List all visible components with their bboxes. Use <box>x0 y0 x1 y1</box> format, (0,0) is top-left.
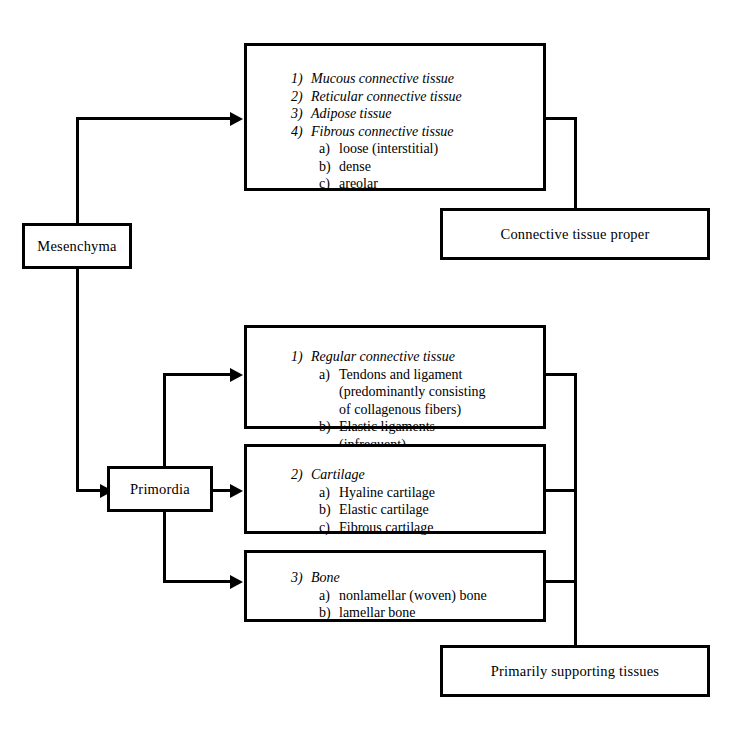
box-connective-tissue-proper: Connective tissue proper <box>440 208 710 260</box>
list-item-marker: 1) <box>291 348 311 366</box>
arrowhead-to-cartilage-box <box>230 484 243 498</box>
list-item-marker: 1) <box>291 70 311 88</box>
list-item-text: nonlamellar (woven) bone <box>339 588 487 603</box>
list-item-marker: b) <box>319 501 339 519</box>
connector-bone-box-out <box>543 580 577 583</box>
list-item-text: Cartilage <box>311 467 365 482</box>
list-item: b)lamellar bone <box>291 604 487 622</box>
list-cartilage: 2)Cartilage a)Hyaline cartilage b)Elasti… <box>291 466 435 536</box>
connector-mesenchyma-down <box>76 266 79 492</box>
list-item: 2)Cartilage <box>291 466 435 484</box>
diagram-canvas: 1)Mucous connective tissue 2)Reticular c… <box>0 0 740 736</box>
list-item-text: Reticular connective tissue <box>311 89 462 104</box>
connector-bus-lower <box>574 373 577 649</box>
box-connective-tissue-proper-label: Connective tissue proper <box>443 226 707 243</box>
connector-mesenchyma-to-upper-box <box>76 117 234 120</box>
arrowhead-to-upper-box <box>230 112 243 126</box>
list-item-text: Hyaline cartilage <box>339 485 435 500</box>
list-item-text: (predominantly consisting <box>339 384 486 399</box>
list-item-text: Fibrous cartilage <box>339 520 433 535</box>
connector-cartilage-box-out <box>543 489 577 492</box>
list-item-text: areolar <box>339 176 378 191</box>
list-item-text: Fibrous connective tissue <box>311 124 454 139</box>
connector-primordia-up <box>163 373 166 466</box>
box-primarily-supporting-tissues-label: Primarily supporting tissues <box>443 663 707 680</box>
list-connective-tissue-proper: 1)Mucous connective tissue 2)Reticular c… <box>291 70 462 193</box>
list-item: b)Elastic cartilage <box>291 501 435 519</box>
connector-primordia-to-regular <box>163 373 234 376</box>
list-item: a)loose (interstitial) <box>291 140 462 158</box>
list-item-marker: 3) <box>291 569 311 587</box>
list-item-marker: c) <box>319 519 339 537</box>
connector-regular-box-out <box>543 373 577 376</box>
list-item: b)dense <box>291 158 462 176</box>
list-item-marker: 2) <box>291 466 311 484</box>
box-mesenchyma: Mesenchyma <box>22 223 132 269</box>
box-mesenchyma-label: Mesenchyma <box>25 238 129 255</box>
list-item-marker: a) <box>319 484 339 502</box>
list-item-marker: b) <box>319 418 339 436</box>
list-item: 3)Adipose tissue <box>291 105 462 123</box>
list-item-text: of collagenous fibers) <box>339 402 461 417</box>
list-item: 2)Reticular connective tissue <box>291 88 462 106</box>
box-primordia-label: Primordia <box>110 481 210 498</box>
box-primarily-supporting-tissues: Primarily supporting tissues <box>440 645 710 697</box>
list-item-text: dense <box>339 159 371 174</box>
list-item: 3)Bone <box>291 569 487 587</box>
connector-bus-upper <box>574 117 577 210</box>
connector-primordia-to-bone <box>163 580 234 583</box>
connector-mesenchyma-up <box>76 117 79 225</box>
list-item-text: Bone <box>311 570 340 585</box>
list-bone: 3)Bone a)nonlamellar (woven) bone b)lame… <box>291 569 487 622</box>
list-item-text: Elastic cartilage <box>339 502 429 517</box>
list-item-text: Mucous connective tissue <box>311 71 454 86</box>
list-item: 1)Regular connective tissue <box>291 348 486 366</box>
list-item-text: lamellar bone <box>339 605 416 620</box>
box-bone: 3)Bone a)nonlamellar (woven) bone b)lame… <box>244 550 546 622</box>
list-item-continuation: (predominantly consisting <box>291 383 486 401</box>
list-regular-connective-tissue: 1)Regular connective tissue a)Tendons an… <box>291 348 486 453</box>
connector-upper-box-out <box>543 117 577 120</box>
list-item-text: loose (interstitial) <box>339 141 438 156</box>
list-item-marker: c) <box>319 175 339 193</box>
list-item-marker: b) <box>319 604 339 622</box>
list-item-text: Regular connective tissue <box>311 349 455 364</box>
list-item: 4)Fibrous connective tissue <box>291 123 462 141</box>
list-item: a)Hyaline cartilage <box>291 484 435 502</box>
list-item-marker: 4) <box>291 123 311 141</box>
list-item-marker: 3) <box>291 105 311 123</box>
list-item-marker: 2) <box>291 88 311 106</box>
list-item: a)Tendons and ligament <box>291 366 486 384</box>
box-primordia: Primordia <box>107 466 213 512</box>
list-item-text: Tendons and ligament <box>339 367 462 382</box>
arrowhead-to-regular-box <box>230 368 243 382</box>
list-item: c)areolar <box>291 175 462 193</box>
list-item-marker: a) <box>319 366 339 384</box>
list-item-continuation: of collagenous fibers) <box>291 401 486 419</box>
list-item: a)nonlamellar (woven) bone <box>291 587 487 605</box>
list-item: b)Elastic ligaments <box>291 418 486 436</box>
list-item: 1)Mucous connective tissue <box>291 70 462 88</box>
box-connective-tissue-proper-categories: 1)Mucous connective tissue 2)Reticular c… <box>244 43 546 191</box>
list-item-marker: a) <box>319 140 339 158</box>
list-item-marker: a) <box>319 587 339 605</box>
box-cartilage: 2)Cartilage a)Hyaline cartilage b)Elasti… <box>244 444 546 534</box>
list-item: c)Fibrous cartilage <box>291 519 435 537</box>
list-item-text: Elastic ligaments <box>339 419 435 434</box>
list-item-text: Adipose tissue <box>311 106 392 121</box>
list-item-marker: b) <box>319 158 339 176</box>
box-regular-connective-tissue: 1)Regular connective tissue a)Tendons an… <box>244 325 546 429</box>
connector-primordia-down <box>163 511 166 583</box>
arrowhead-to-bone-box <box>230 575 243 589</box>
